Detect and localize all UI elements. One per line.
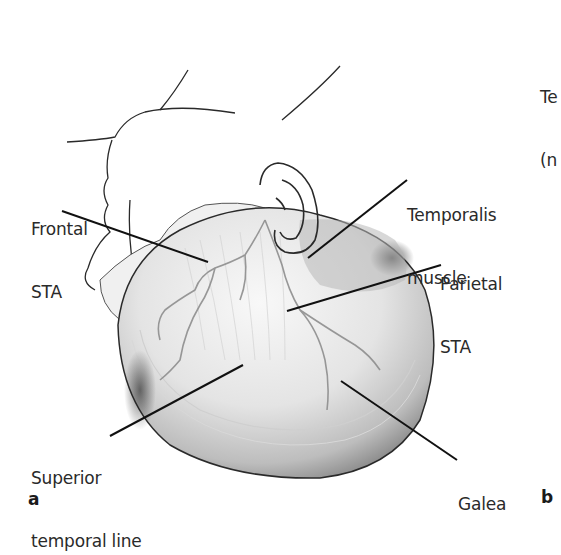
panel-letter-a: a: [28, 489, 39, 509]
label-superior-temporal-line2: temporal line: [31, 531, 142, 552]
label-frontal-sta: Frontal STA: [31, 177, 88, 345]
label-galea: Galea: [458, 452, 506, 555]
label-temporalis-line1: Temporalis: [407, 205, 496, 226]
label-parietal-sta-line1: Parietal: [440, 274, 502, 295]
panel-letter-b: b: [541, 487, 553, 507]
label-galea-line1: Galea: [458, 494, 506, 515]
label-frontal-sta-line2: STA: [31, 282, 88, 303]
label-panel-b-partial-line2: (n: [540, 150, 561, 171]
label-parietal-sta-line2: STA: [440, 337, 502, 358]
label-superior-temporal-line: Superior temporal line: [31, 426, 142, 555]
label-parietal-sta: Parietal STA: [440, 232, 502, 400]
label-frontal-sta-line1: Frontal: [31, 219, 88, 240]
label-superior-temporal-line1: Superior: [31, 468, 142, 489]
label-panel-b-partial-line1: Te: [540, 87, 561, 108]
label-panel-b-partial: Te (n: [540, 45, 561, 213]
